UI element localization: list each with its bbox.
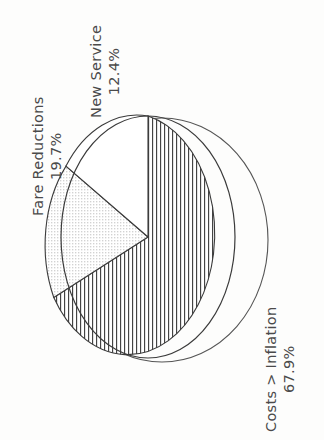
slice-label-costs-inflation-value: 67.9%	[281, 306, 299, 432]
slice-label-fare-reductions-name: Fare Reductions	[30, 96, 48, 216]
slice-label-new-service-name: New Service	[88, 25, 106, 118]
slice-label-fare-reductions: Fare Reductions 19.7%	[30, 96, 65, 216]
pie-chart-figure: New Service 12.4% Fare Reductions 19.7% …	[0, 0, 324, 440]
slice-label-costs-inflation: Costs > Inflation 67.9%	[263, 306, 298, 432]
slice-label-new-service-value: 12.4%	[106, 25, 124, 118]
slice-label-fare-reductions-value: 19.7%	[48, 96, 66, 216]
slice-label-costs-inflation-name: Costs > Inflation	[263, 306, 281, 432]
slice-label-new-service: New Service 12.4%	[88, 25, 123, 118]
